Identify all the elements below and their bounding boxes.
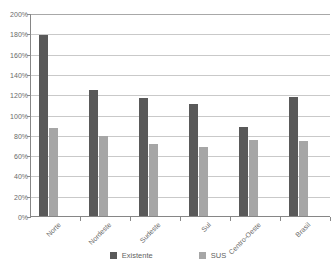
y-axis-tick-label: 0% — [0, 214, 28, 221]
y-axis-tick-label: 100% — [0, 112, 28, 119]
x-axis-tick-label: Sudeste — [139, 221, 162, 244]
bar-sus-brasil — [299, 141, 308, 216]
x-axis-labels: NorteNordesteSudesteSulCentro-OesteBrasi… — [30, 221, 330, 249]
bar-group — [281, 14, 331, 216]
y-axis-tick-label: 160% — [0, 51, 28, 58]
bar-existente-nordeste — [89, 90, 98, 216]
y-axis-tick-label: 120% — [0, 92, 28, 99]
x-axis-tick — [330, 217, 331, 221]
legend-label: Existente — [122, 252, 153, 260]
bar-group — [231, 14, 281, 216]
y-axis-tick-label: 200% — [0, 11, 28, 18]
bar-existente-norte — [39, 35, 48, 216]
y-axis-tick-label: 40% — [0, 173, 28, 180]
bar-existente-brasil — [289, 97, 298, 216]
bar-sus-sudeste — [149, 144, 158, 216]
legend-label: SUS — [211, 252, 226, 260]
y-axis-tick-label: 20% — [0, 193, 28, 200]
x-axis-tick-label: Brasil — [295, 221, 312, 238]
legend-item-sus[interactable]: SUS — [199, 252, 226, 260]
x-axis-tick-label: Sul — [200, 221, 212, 233]
chart-legend: ExistenteSUS — [0, 252, 336, 260]
y-axis-tick-label: 60% — [0, 153, 28, 160]
x-axis-tick-label: Norte — [45, 221, 62, 238]
bar-sus-nordeste — [99, 136, 108, 216]
bar-sus-sul — [199, 147, 208, 216]
bar-sus-centro-oeste — [249, 140, 258, 216]
bar-existente-centro-oeste — [239, 127, 248, 216]
plot-area — [30, 14, 330, 217]
bar-group — [31, 14, 81, 216]
legend-swatch-icon — [110, 252, 117, 259]
x-axis-tick-label: Centro-Oeste — [227, 221, 262, 256]
bar-sus-norte — [49, 128, 58, 216]
y-axis-labels: 0%20%40%60%80%100%120%140%160%180%200% — [0, 14, 28, 217]
legend-item-existente[interactable]: Existente — [110, 252, 153, 260]
y-axis-tick-label: 80% — [0, 132, 28, 139]
bar-group — [181, 14, 231, 216]
bar-group — [81, 14, 131, 216]
bar-chart: 0%20%40%60%80%100%120%140%160%180%200% N… — [0, 0, 336, 271]
y-axis-tick-label: 140% — [0, 71, 28, 78]
bar-existente-sul — [189, 104, 198, 216]
x-axis-tick-label: Nordeste — [87, 221, 112, 246]
bar-existente-sudeste — [139, 98, 148, 216]
legend-swatch-icon — [199, 252, 206, 259]
bar-group — [131, 14, 181, 216]
y-axis-tick-label: 180% — [0, 31, 28, 38]
